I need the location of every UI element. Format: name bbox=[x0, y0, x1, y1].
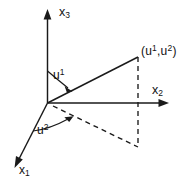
axis-x2-arrowhead bbox=[159, 99, 170, 107]
angle-label-u2-superscript: 2 bbox=[44, 122, 49, 132]
axis-label-x1: x1 bbox=[19, 164, 30, 177]
angle-arc-u2-arrowhead bbox=[64, 116, 73, 122]
axis-label-x1-subscript: 1 bbox=[25, 168, 30, 178]
angle-label-u1-superscript: 1 bbox=[60, 67, 65, 77]
axis-label-x3-subscript: 3 bbox=[65, 10, 70, 20]
angle-arc-u1-arrowhead bbox=[65, 86, 73, 92]
axis-x3-arrowhead bbox=[44, 9, 52, 20]
angle-label-u2-base: u bbox=[37, 123, 44, 137]
diagram-canvas bbox=[0, 0, 196, 184]
angle-label-u1-base: u bbox=[53, 68, 60, 82]
axis-label-x2: x2 bbox=[152, 84, 163, 97]
dashed-projection-ray bbox=[53, 106, 138, 147]
coordinate-diagram: x3 x2 x1 u1 u2 (u1,u2) bbox=[0, 0, 196, 184]
point-label: (u1,u2) bbox=[141, 44, 177, 57]
axis-label-x3: x3 bbox=[59, 6, 70, 19]
angle-label-u2: u2 bbox=[37, 123, 48, 136]
axis-label-x2-subscript: 2 bbox=[158, 88, 163, 98]
angle-label-u1: u1 bbox=[53, 68, 64, 81]
point-label-close-paren: ) bbox=[172, 44, 176, 58]
